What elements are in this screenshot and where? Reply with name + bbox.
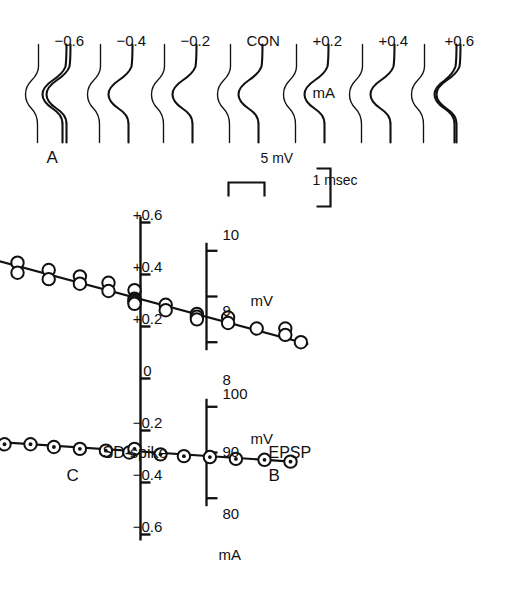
panel-b-value-axis — [206, 242, 217, 349]
xaxis-tick-plus-0-6: +0.6 — [130, 206, 164, 221]
figure-root: +0.6 +0.4 +0.2 CON −0.2 −0.4 −0.6 mA 5 m… — [0, 0, 512, 601]
panel-b-series-label: EPSP — [268, 444, 311, 460]
xaxis-tick-minus-0-2: −0.2 — [130, 414, 164, 429]
xaxis-unit: mA — [218, 546, 241, 561]
data-point — [128, 297, 140, 309]
panel-c-series-label: SD-spike — [102, 444, 167, 460]
xaxis-tick-plus-0-4: +0.4 — [130, 258, 164, 273]
data-point — [11, 266, 23, 278]
panel-b-ytick-9: 9 — [222, 302, 230, 317]
panel-c-ytick-100: 100 — [222, 385, 247, 400]
data-point — [250, 322, 262, 334]
data-point — [102, 284, 114, 296]
data-point — [73, 442, 85, 454]
xaxis-tick-minus-0-6: −0.6 — [130, 518, 164, 533]
xaxis-tick-minus-0-4: −0.4 — [130, 466, 164, 481]
panel-c-yaxis-unit: mV — [250, 430, 273, 445]
figure-plate: +0.6 +0.4 +0.2 CON −0.2 −0.4 −0.6 mA 5 m… — [0, 0, 512, 601]
panel-b-yaxis-unit: mV — [250, 292, 273, 307]
xaxis-tick-plus-0-2: +0.2 — [130, 310, 164, 325]
data-point — [47, 440, 59, 452]
data-point — [190, 313, 202, 325]
data-point — [24, 438, 36, 450]
data-point — [294, 336, 306, 348]
panel-letter-c: C — [66, 466, 78, 483]
data-point — [203, 450, 215, 462]
panel-b-ytick-10: 10 — [222, 226, 239, 241]
panel-letter-b: B — [268, 466, 279, 483]
panel-c-ytick-90: 90 — [222, 443, 239, 458]
data-point — [73, 277, 85, 289]
xaxis-tick-zero: 0 — [130, 362, 164, 377]
panel-c-ytick-80: 80 — [222, 505, 239, 520]
data-point — [177, 449, 189, 461]
data-point — [279, 328, 291, 340]
data-point — [0, 438, 10, 450]
data-point — [42, 272, 54, 284]
